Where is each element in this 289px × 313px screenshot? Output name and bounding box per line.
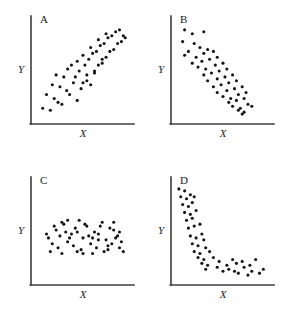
data-point (206, 79, 209, 82)
data-point (218, 260, 221, 263)
data-point (202, 238, 205, 241)
data-point (51, 242, 54, 245)
data-point (81, 236, 84, 239)
data-point (206, 264, 209, 267)
data-point (225, 89, 228, 92)
data-point (45, 93, 48, 96)
data-point (72, 81, 75, 84)
data-point (191, 32, 194, 35)
data-point (99, 44, 102, 47)
data-point (233, 87, 236, 90)
data-point (120, 40, 123, 43)
data-point (110, 34, 113, 37)
data-point (196, 244, 199, 247)
data-point (118, 230, 121, 233)
data-point (221, 270, 224, 273)
data-point (93, 71, 96, 74)
data-point (101, 58, 104, 61)
scatterplot-figure: Y A X Y B X Y C X Y D (0, 0, 289, 313)
data-point (246, 274, 249, 277)
data-point (72, 244, 75, 247)
panel-b-letter: B (180, 14, 187, 25)
data-point (55, 228, 58, 231)
data-point (200, 232, 203, 235)
panel-d-plot-area (158, 173, 283, 303)
data-point (216, 56, 219, 59)
panel-a-x-axis-label: X (31, 128, 135, 139)
data-point (231, 258, 234, 261)
data-point (41, 107, 44, 110)
data-point (70, 64, 73, 67)
data-point (200, 262, 203, 265)
data-point (74, 75, 77, 78)
data-point (93, 230, 96, 233)
data-point (202, 52, 205, 55)
data-point (250, 105, 253, 108)
data-point (112, 221, 115, 224)
data-point (198, 223, 201, 226)
data-point (60, 103, 63, 106)
data-point (49, 250, 52, 253)
data-point (56, 246, 59, 249)
data-point (97, 64, 100, 67)
data-point (221, 62, 224, 65)
data-point (76, 230, 79, 233)
data-point (191, 62, 194, 65)
data-point (229, 97, 232, 100)
data-point (53, 225, 56, 228)
data-point (64, 230, 67, 233)
data-point (189, 213, 192, 216)
data-point (191, 217, 194, 220)
panel-a-plot-area (18, 12, 143, 142)
scatter-panel-b: Y B X (158, 12, 283, 142)
data-point (235, 99, 238, 102)
data-point (106, 244, 109, 247)
data-point (76, 99, 79, 102)
data-point (210, 71, 213, 74)
data-point (221, 95, 224, 98)
data-point (233, 270, 236, 273)
data-point (183, 211, 186, 214)
data-point (68, 236, 71, 239)
data-point (89, 46, 92, 49)
data-point (183, 189, 186, 192)
data-point (81, 81, 84, 84)
data-point (74, 227, 77, 230)
data-point (70, 232, 73, 235)
data-point (183, 28, 186, 31)
data-point (179, 195, 182, 198)
panel-c-x-axis-label: X (31, 289, 135, 300)
data-point (60, 252, 63, 255)
data-point (189, 193, 192, 196)
data-point (183, 54, 186, 57)
data-point (181, 203, 184, 206)
data-point (218, 69, 221, 72)
data-point (198, 252, 201, 255)
data-point (78, 69, 81, 72)
data-point (83, 223, 86, 226)
data-point (227, 268, 230, 271)
data-point (237, 109, 240, 112)
data-point (76, 250, 79, 253)
data-point (103, 250, 106, 253)
data-point (212, 85, 215, 88)
data-point (106, 248, 109, 251)
data-point (237, 272, 240, 275)
data-point (103, 42, 106, 45)
data-point (187, 227, 190, 230)
data-point (51, 83, 54, 86)
panel-d-y-axis-label: Y (158, 225, 164, 236)
scatter-panel-c: Y C X (18, 173, 143, 303)
data-point (216, 91, 219, 94)
data-point (237, 93, 240, 96)
data-point (250, 270, 253, 273)
data-point (81, 252, 84, 255)
data-point (122, 250, 125, 253)
data-point (241, 85, 244, 88)
data-point (68, 93, 71, 96)
data-point (65, 89, 68, 92)
data-point (193, 225, 196, 228)
data-point (114, 236, 117, 239)
panel-b-y-axis-label: Y (158, 64, 164, 75)
data-point (258, 272, 261, 275)
